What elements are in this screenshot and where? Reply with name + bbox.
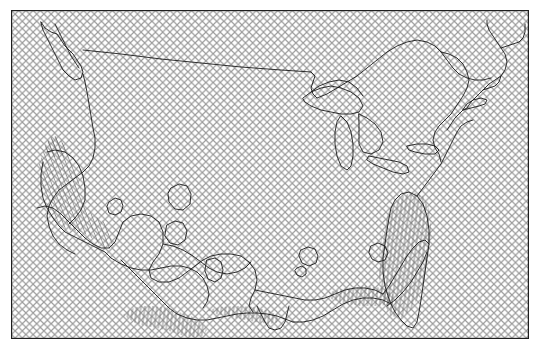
map-axes [11,10,529,339]
significance-crosshatch-layer [11,10,529,339]
map-svg [11,10,529,339]
figure-canvas [0,0,542,354]
